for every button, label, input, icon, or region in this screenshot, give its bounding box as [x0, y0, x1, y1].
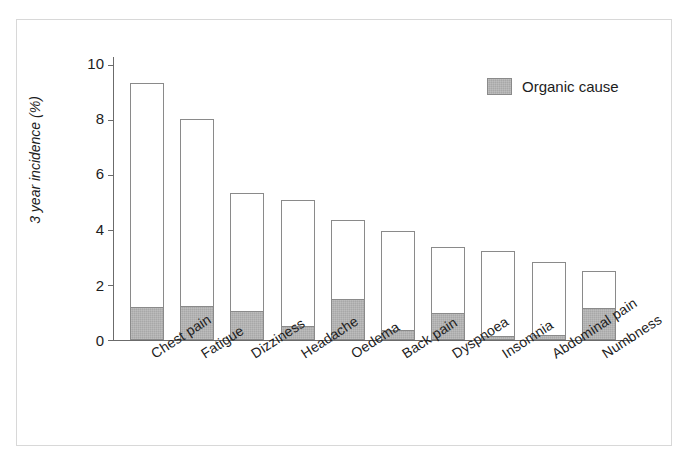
x-label-back-pain: Back pain — [399, 314, 460, 361]
y-tick-mark-8 — [108, 120, 113, 121]
y-tick-mark-10 — [108, 65, 113, 66]
x-axis-category-labels: Chest painFatigueDizzinessHeadacheOedema… — [0, 0, 690, 465]
x-label-dizziness: Dizziness — [248, 315, 308, 362]
chart-legend: Organic cause — [487, 78, 619, 95]
legend-label-organic-cause: Organic cause — [522, 79, 619, 94]
chart-plot-area: 10 8 6 4 2 0 3 year incidence (%) Chest … — [0, 0, 690, 465]
x-label-abdominal-pain: Abdominal pain — [549, 295, 640, 362]
x-label-dyspnoea: Dyspnoea — [449, 313, 511, 361]
y-tick-mark-2 — [108, 285, 113, 286]
y-tick-mark-6 — [108, 175, 113, 176]
y-tick-mark-0 — [108, 340, 113, 341]
y-tick-mark-4 — [108, 230, 113, 231]
legend-swatch-organic-cause — [487, 78, 512, 95]
